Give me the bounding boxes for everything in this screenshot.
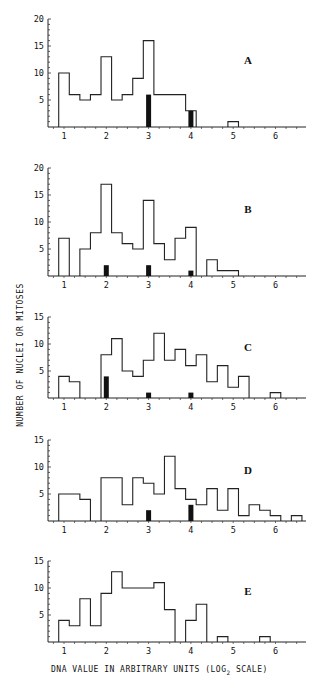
y-tick-label: 5 [39,244,44,254]
x-tick-label: 4 [188,525,193,535]
x-tick-label: 2 [104,525,109,535]
y-tick-label: 5 [39,366,44,376]
mitoses-bar [188,111,193,127]
x-tick-label: 1 [61,280,66,290]
histogram-panel-e: 51015123456E [34,556,306,656]
y-tick-label: 5 [39,610,44,620]
y-tick-label: 15 [34,41,44,51]
panel-label: C [244,341,252,353]
x-tick-label: 3 [146,280,151,290]
x-tick-label: 4 [188,280,193,290]
mitoses-bar [146,265,151,276]
x-tick-label: 1 [61,646,66,656]
y-tick-label: 15 [34,556,44,566]
x-tick-label: 3 [146,646,151,656]
x-tick-label: 5 [231,646,236,656]
nuclei-histogram [59,572,271,642]
x-tick-label: 5 [231,525,236,535]
y-tick-label: 10 [34,339,44,349]
histogram-panel-d: 51015123456D [34,435,306,535]
mitoses-bar [146,393,151,398]
y-tick-label: 15 [34,190,44,200]
y-tick-label: 5 [39,95,44,105]
x-tick-label: 5 [231,131,236,141]
y-tick-label: 10 [34,583,44,593]
x-tick-label: 6 [273,402,278,412]
x-tick-label: 2 [104,646,109,656]
x-tick-label: 4 [188,131,193,141]
y-tick-label: 10 [34,68,44,78]
nuclei-histogram [59,456,302,521]
y-tick-label: 10 [34,462,44,472]
x-tick-label: 1 [61,131,66,141]
panel-label: E [244,585,251,597]
x-tick-label: 4 [188,402,193,412]
nuclei-histogram [59,184,239,276]
x-axis-title: DNA VALUE IN ARBITRARY UNITS (LOG2 SCALE… [51,665,268,676]
panel-label: B [244,203,252,215]
y-tick-label: 10 [34,217,44,227]
y-tick-label: 15 [34,435,44,445]
x-tick-label: 4 [188,646,193,656]
x-tick-label: 3 [146,131,151,141]
histogram-figure: 5101520123456A5101520123456B51015123456C… [0,0,323,690]
mitoses-bar [188,271,193,276]
mitoses-bar [188,393,193,398]
x-tick-label: 3 [146,525,151,535]
mitoses-bar [146,510,151,521]
mitoses-bar [146,95,151,127]
x-tick-label: 5 [231,402,236,412]
x-tick-label: 6 [273,525,278,535]
y-axis-title: NUMBER OF NUCLEI OR MITOSES [16,283,25,427]
x-tick-label: 6 [273,131,278,141]
panel-label: D [244,464,252,476]
y-tick-label: 5 [39,489,44,499]
x-tick-label: 5 [231,280,236,290]
panel-label: A [244,54,252,66]
histogram-panel-c: 51015123456C [34,312,306,412]
mitoses-bar [188,505,193,521]
histogram-panel-b: 5101520123456B [34,163,306,290]
x-tick-label: 1 [61,525,66,535]
mitoses-bar [104,376,109,398]
x-tick-label: 2 [104,131,109,141]
y-tick-label: 20 [34,163,44,173]
x-tick-label: 1 [61,402,66,412]
x-tick-label: 2 [104,402,109,412]
histogram-panel-a: 5101520123456A [34,14,306,141]
x-tick-label: 2 [104,280,109,290]
y-tick-label: 15 [34,312,44,322]
mitoses-bar [104,265,109,276]
figure-canvas: 5101520123456A5101520123456B51015123456C… [0,0,323,690]
x-tick-label: 6 [273,280,278,290]
x-tick-label: 6 [273,646,278,656]
y-tick-label: 20 [34,14,44,24]
x-tick-label: 3 [146,402,151,412]
